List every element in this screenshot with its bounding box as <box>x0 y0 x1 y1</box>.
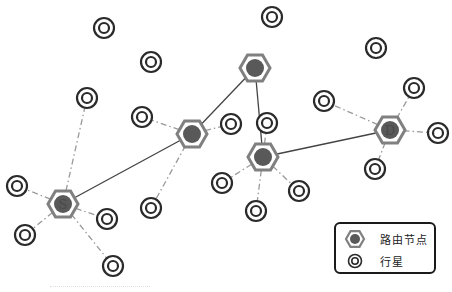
solid-link <box>263 130 390 157</box>
router-label: D <box>385 123 395 138</box>
planet-node <box>262 7 282 27</box>
planet-node <box>7 176 27 196</box>
router-hexagon-icon <box>344 230 366 248</box>
faint-caption-line <box>50 286 150 289</box>
planet-node <box>314 91 334 111</box>
legend-planet-row: 行星 <box>344 252 404 270</box>
planet-node <box>97 209 117 229</box>
planet-node <box>103 256 123 276</box>
planet-node <box>141 198 161 218</box>
planet-node <box>366 38 386 58</box>
planet-node <box>404 78 424 98</box>
legend-router-label: 路由节点 <box>380 231 428 247</box>
legend-router-row: 路由节点 <box>344 230 428 248</box>
planet-node <box>289 181 309 201</box>
planet-ring-icon <box>344 252 366 270</box>
router-node-r2 <box>240 55 270 81</box>
planet-node <box>15 225 35 245</box>
planet-node <box>212 173 232 193</box>
router-label: S <box>59 197 68 212</box>
solid-link <box>63 134 192 204</box>
legend-planet-label: 行星 <box>380 253 404 269</box>
router-node-r3 <box>248 144 278 170</box>
planet-node <box>246 201 266 221</box>
planet-node <box>77 88 97 108</box>
planet-node <box>132 107 152 127</box>
router-node-s: S <box>48 191 78 217</box>
router-node-d: D <box>375 117 405 143</box>
dashed-link <box>63 98 87 204</box>
planet-node <box>257 113 277 133</box>
planet-node <box>221 114 241 134</box>
planet-node <box>428 123 448 143</box>
router-node-r1 <box>177 121 207 147</box>
planet-node <box>365 159 385 179</box>
planet-node <box>141 52 161 72</box>
planet-node <box>94 18 114 38</box>
legend: 路由节点 行星 <box>334 222 436 274</box>
